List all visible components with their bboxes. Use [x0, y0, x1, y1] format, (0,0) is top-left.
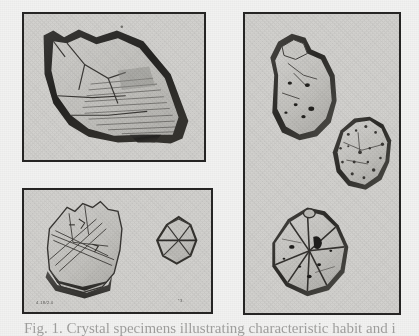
plate-figure: 4.18/2.0 *3. Fig. 1. Crystal specimens i…	[0, 0, 419, 336]
specimen-b-label: *3.	[178, 298, 184, 303]
figure-caption: Fig. 1. Crystal specimens illustrating c…	[24, 322, 396, 336]
top-left-panel	[22, 12, 206, 162]
figure-caption-text: Fig. 1. Crystal specimens illustrating c…	[24, 322, 396, 336]
bottom-left-specimens-illustration	[24, 190, 211, 312]
middle-granular-crystal	[333, 117, 391, 190]
bottom-left-panel	[22, 188, 213, 314]
blocky-striated-crystal	[46, 202, 122, 299]
right-panel-specimens-illustration	[245, 14, 399, 313]
specimen-a-label: 4.18/2.0	[36, 300, 54, 305]
upper-rounded-crystal	[270, 34, 336, 141]
right-panel	[243, 12, 401, 315]
shadow-facet	[118, 67, 155, 90]
ink-speck	[121, 25, 124, 28]
apex-knob	[303, 209, 315, 218]
small-lenticular-crystal	[157, 217, 196, 263]
lower-octahedral-crystal	[272, 207, 348, 296]
elongated-tabular-crystal-illustration	[24, 14, 204, 160]
